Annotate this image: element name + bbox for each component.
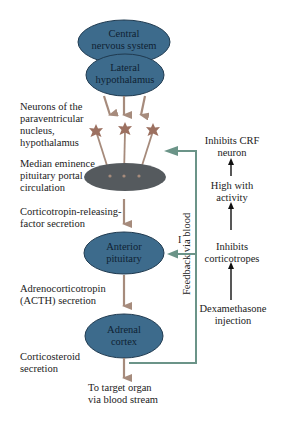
label-feedback-via-blood: Feedback via blood bbox=[181, 213, 192, 295]
node-label-line: Central bbox=[84, 28, 164, 40]
label-crf-secretion: Corticotropin-releasing- factor secretio… bbox=[20, 206, 121, 230]
label-high-with-activity: High with activity bbox=[196, 180, 268, 204]
label-line: Corticosteroid bbox=[20, 351, 80, 363]
label-line: Median eminence bbox=[20, 158, 95, 170]
label-corticosteroid-secretion: Corticosteroid secretion bbox=[20, 351, 80, 375]
label-line: Inhibits bbox=[196, 241, 268, 253]
label-line: Dexamethasone bbox=[194, 303, 272, 315]
node-label-line: hypothalamus bbox=[85, 74, 165, 86]
node-label-line: nervous system bbox=[84, 40, 164, 52]
label-neurons: Neurons of the paraventricular nucleus, … bbox=[20, 101, 84, 149]
label-dexamethasone: Dexamethasone injection bbox=[194, 303, 272, 327]
label-line: Corticotropin-releasing- bbox=[20, 206, 121, 218]
label-line: pituitary portal bbox=[20, 170, 95, 182]
node-label-line: pituitary bbox=[84, 253, 164, 265]
node-label-adrenal-cortex: Adrenal cortex bbox=[84, 324, 164, 348]
node-label-line: Lateral bbox=[85, 62, 165, 74]
label-line: neuron bbox=[196, 147, 268, 159]
label-line: factor secretion bbox=[20, 218, 121, 230]
label-line: hypothalamus bbox=[20, 137, 84, 149]
node-label-cns: Central nervous system bbox=[84, 28, 164, 52]
arrows-to-neurons bbox=[104, 96, 145, 115]
label-line: nucleus, bbox=[20, 125, 84, 137]
label-line: circulation bbox=[20, 182, 95, 194]
label-line: Inhibits CRF bbox=[196, 135, 268, 147]
node-label-line: Adrenal bbox=[84, 324, 164, 336]
median-eminence bbox=[84, 163, 166, 191]
label-line: injection bbox=[194, 315, 272, 327]
label-inhibits-crf: Inhibits CRF neuron bbox=[196, 135, 268, 159]
node-label-anterior-pituitary: Anterior pituitary bbox=[84, 241, 164, 265]
label-line: High with bbox=[196, 180, 268, 192]
label-acth-secretion: Adrenocorticotropin (ACTH) secretion bbox=[20, 283, 106, 307]
label-inhibits-corticotropes: Inhibits corticotropes bbox=[196, 241, 268, 265]
label-line: Neurons of the bbox=[20, 101, 84, 113]
node-label-line: cortex bbox=[84, 336, 164, 348]
label-line: secretion bbox=[20, 363, 80, 375]
feedback-arrowheads bbox=[164, 146, 178, 259]
inhibit-mark: I bbox=[178, 234, 181, 246]
node-label-line: Anterior bbox=[84, 241, 164, 253]
label-median-eminence: Median eminence pituitary portal circula… bbox=[20, 158, 95, 194]
neuron-icon bbox=[89, 124, 103, 137]
label-line: activity bbox=[196, 192, 268, 204]
node-label-lateral-hypothalamus: Lateral hypothalamus bbox=[85, 62, 165, 86]
label-line: (ACTH) secretion bbox=[20, 295, 106, 307]
label-line: paraventricular bbox=[20, 113, 84, 125]
neuron-icon bbox=[146, 123, 160, 136]
label-line: via blood stream bbox=[88, 394, 158, 406]
label-target-organ: To target organ via blood stream bbox=[88, 382, 158, 406]
label-line: corticotropes bbox=[196, 253, 268, 265]
label-line: To target organ bbox=[88, 382, 158, 394]
label-line: Adrenocorticotropin bbox=[20, 283, 106, 295]
